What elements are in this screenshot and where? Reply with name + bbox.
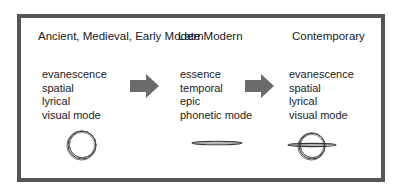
line-icon <box>190 136 244 150</box>
list-item: essence <box>180 68 252 82</box>
list-item: evanescence <box>289 68 354 82</box>
list-item: epic <box>180 95 252 109</box>
list-item: lyrical <box>289 95 354 109</box>
list-item: visual mode <box>42 109 107 123</box>
column-list-ancient: evanescence spatial lyrical visual mode <box>42 68 107 122</box>
list-item: visual mode <box>289 109 354 123</box>
right-arrow-icon <box>245 74 275 98</box>
list-item: lyrical <box>42 95 107 109</box>
column-heading-late-modern: Late Modern <box>178 30 243 42</box>
column-list-contemporary: evanescence spatial lyrical visual mode <box>289 68 354 122</box>
list-item: spatial <box>289 82 354 96</box>
list-item: phonetic mode <box>180 109 252 123</box>
circle-icon <box>64 127 100 163</box>
column-list-late-modern: essence temporal epic phonetic mode <box>180 68 252 122</box>
list-item: evanescence <box>42 68 107 82</box>
circle-with-line-icon <box>286 128 338 164</box>
right-arrow-icon <box>130 74 160 98</box>
list-item: temporal <box>180 82 252 96</box>
list-item: spatial <box>42 82 107 96</box>
column-heading-contemporary: Contemporary <box>292 30 365 42</box>
